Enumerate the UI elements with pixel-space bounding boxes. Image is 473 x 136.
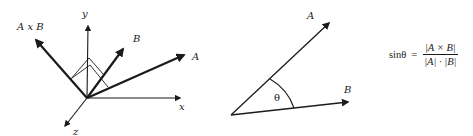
formula-lhs: sinθ <box>389 49 406 60</box>
left-diagram: y x z A x B B A <box>16 8 199 136</box>
formula-theta: θ <box>401 49 406 60</box>
y-axis <box>87 26 88 98</box>
angle-vector-b <box>231 102 348 115</box>
formula-denominator: |A| · |B| <box>422 55 458 67</box>
middle-diagram: θ A B <box>231 10 351 115</box>
x-axis-label: x <box>179 101 185 112</box>
z-axis <box>65 98 87 126</box>
formula-sin: sin <box>389 49 401 60</box>
z-axis-label: z <box>72 126 79 136</box>
sine-formula: sinθ = |A × B| |A| · |B| <box>389 42 458 67</box>
angle-vector-a-label: A <box>306 10 314 21</box>
right-angle-markers <box>70 58 108 87</box>
vector-b-label: B <box>132 33 140 44</box>
vector-a-label: A <box>191 51 199 62</box>
formula-equals: = <box>411 49 417 60</box>
formula-fraction: |A × B| |A| · |B| <box>422 42 458 67</box>
y-axis-label: y <box>81 8 88 19</box>
angle-vector-b-label: B <box>343 84 351 95</box>
angle-theta-label: θ <box>274 92 280 103</box>
cross-product-label: A x B <box>16 21 44 32</box>
diagram-canvas: y x z A x B B A θ A B <box>0 0 473 136</box>
formula-numerator: |A × B| <box>423 42 458 55</box>
